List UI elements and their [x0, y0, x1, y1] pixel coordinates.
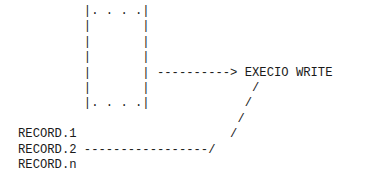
- diagram-line: | |: [18, 35, 150, 49]
- diagram-line: |. . . .|: [18, 4, 150, 18]
- diagram-line-record-1: RECORD.1 /: [18, 127, 237, 141]
- diagram-line: | |: [18, 50, 150, 64]
- diagram-line: |. . . .| /: [18, 96, 252, 110]
- diagram-line: | | /: [18, 81, 259, 95]
- diagram-line-execio-arrow: | | ----------> EXECIO WRITE: [18, 66, 333, 80]
- diagram-line-record-2: RECORD.2 -----------------/: [18, 143, 215, 157]
- diagram-line-record-n: RECORD.n: [18, 158, 77, 172]
- diagram-line: | |: [18, 19, 150, 33]
- ascii-diagram: |. . . .| | | | | | | | | ----------> EX…: [18, 4, 333, 173]
- diagram-line: /: [18, 112, 245, 126]
